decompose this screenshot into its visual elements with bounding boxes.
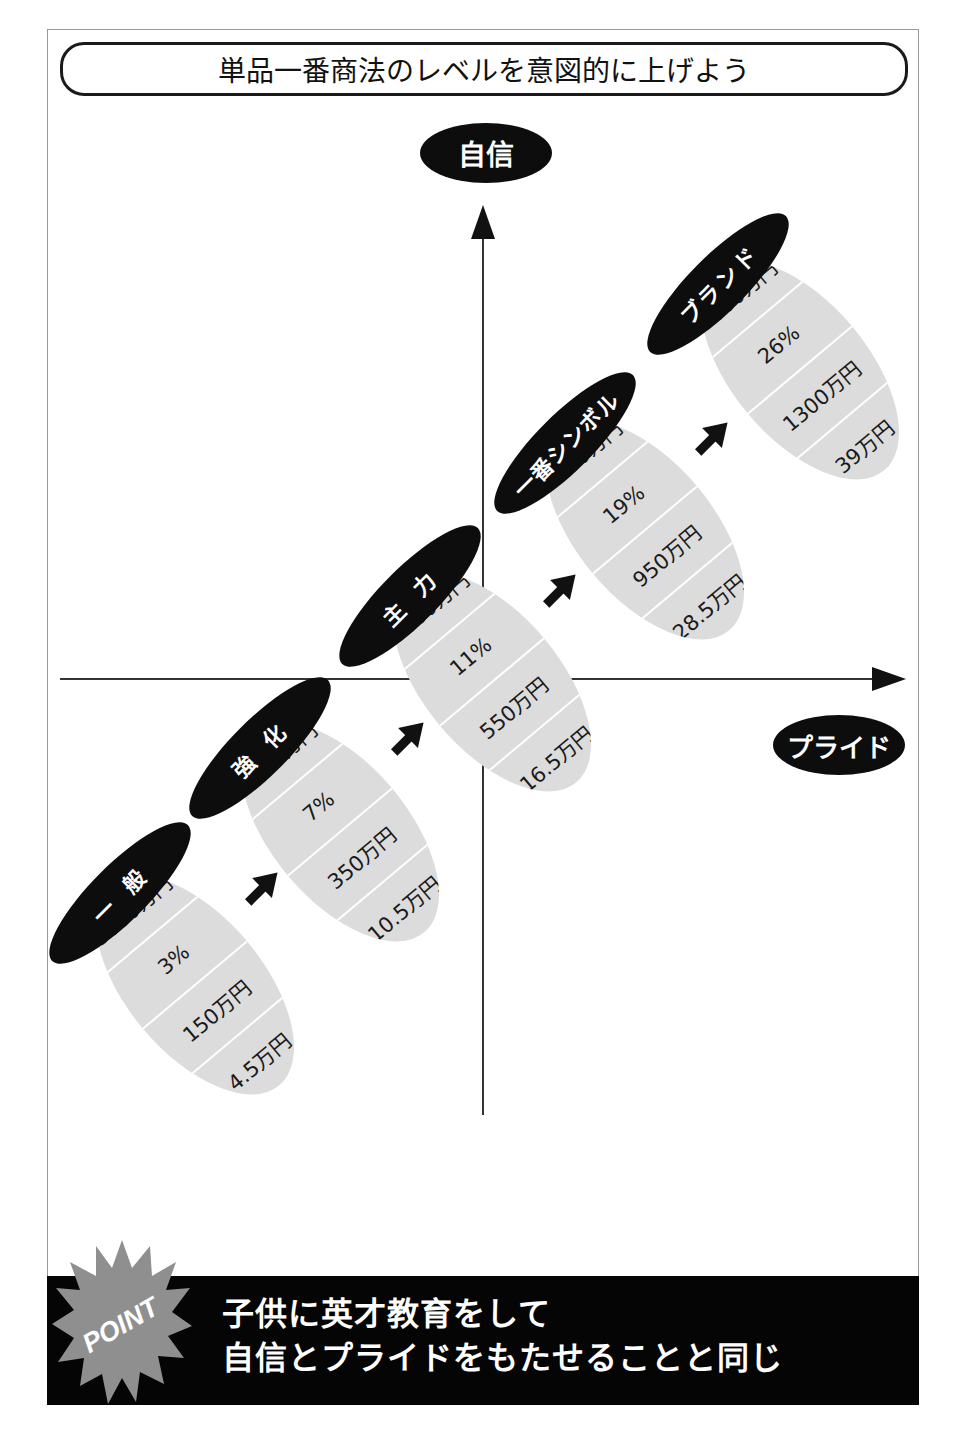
y-axis-arrow-icon [471,205,495,239]
point-line-1: 子供に英才教育をして [222,1292,783,1336]
stage-rate: 11% [445,633,496,681]
y-axis-label: 自信 [420,123,552,183]
point-line-2: 自信とプライドをもたせることと同じ [222,1336,783,1380]
stage-rate: 3% [153,940,194,980]
figure-title: 単品一番商法のレベルを意図的に上げよう [218,49,750,89]
x-axis-arrow-icon [872,667,906,691]
x-axis-label: プライド [773,715,905,775]
stage-rate: 26% [753,321,804,369]
stage-rate: 7% [298,787,339,827]
stage-rate: 19% [598,481,649,529]
point-badge: POINT [52,1238,192,1408]
point-message: 子供に英才教育をして 自信とプライドをもたせることと同じ [222,1292,783,1380]
starburst-icon: POINT [52,1238,192,1408]
title-box: 単品一番商法のレベルを意図的に上げよう [60,42,908,96]
